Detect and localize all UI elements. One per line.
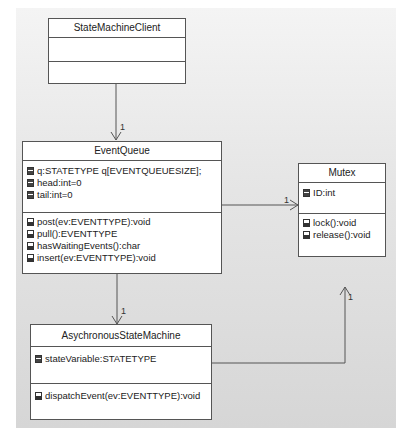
operation: release():void: [303, 229, 381, 241]
method-icon: [303, 231, 310, 239]
method-icon: [27, 254, 34, 262]
operation: lock():void: [303, 217, 381, 229]
class-asychronousstatemachine[interactable]: AsychronousStateMachine stateVariable:ST…: [30, 324, 212, 420]
class-name: Mutex: [299, 164, 385, 183]
method-icon: [27, 230, 34, 238]
attribute: head:int=0: [27, 177, 217, 189]
operation: pull():EVENTTYPE: [27, 228, 217, 240]
operations-section: lock():void release():void: [299, 214, 385, 243]
operation: hasWaitingEvents():char: [27, 240, 217, 252]
field-icon: [27, 191, 34, 199]
class-name: AsychronousStateMachine: [31, 325, 211, 347]
operation: post(ev:EVENTTYPE):void: [27, 216, 217, 228]
operations-section: dispatchEvent(ev:EVENTTYPE):void: [31, 384, 211, 404]
field-icon: [27, 167, 34, 175]
class-mutex[interactable]: Mutex ID:int lock():void release():void: [298, 163, 386, 257]
attributes-section: ID:int: [299, 183, 385, 214]
attribute: q:STATETYPE q[EVENTQUEUESIZE];: [27, 165, 217, 177]
multiplicity-label: 1: [120, 122, 125, 132]
field-icon: [303, 189, 310, 197]
class-name: EventQueue: [23, 142, 221, 161]
class-eventqueue[interactable]: EventQueue q:STATETYPE q[EVENTQUEUESIZE]…: [22, 141, 222, 274]
method-icon: [27, 218, 34, 226]
attribute: tail:int=0: [27, 189, 217, 201]
attributes-section: q:STATETYPE q[EVENTQUEUESIZE]; head:int=…: [23, 161, 221, 213]
attribute: stateVariable:STATETYPE: [35, 353, 207, 365]
class-statemachineclient[interactable]: StateMachineClient: [48, 18, 186, 84]
multiplicity-label: 1: [121, 306, 126, 316]
operation: dispatchEvent(ev:EVENTTYPE):void: [35, 390, 207, 402]
multiplicity-label: 1: [348, 292, 353, 302]
operation: insert(ev:EVENTTYPE):void: [27, 252, 217, 264]
method-icon: [27, 242, 34, 250]
attribute: ID:int: [303, 187, 381, 199]
multiplicity-label: 1: [284, 195, 289, 205]
operations-section: [49, 62, 185, 84]
class-name: StateMachineClient: [49, 19, 185, 38]
operations-section: post(ev:EVENTTYPE):void pull():EVENTTYPE…: [23, 213, 221, 266]
field-icon: [27, 179, 34, 187]
field-icon: [35, 355, 42, 363]
attributes-section: [49, 38, 185, 62]
method-icon: [303, 219, 310, 227]
method-icon: [35, 392, 42, 400]
attributes-section: stateVariable:STATETYPE: [31, 347, 211, 384]
